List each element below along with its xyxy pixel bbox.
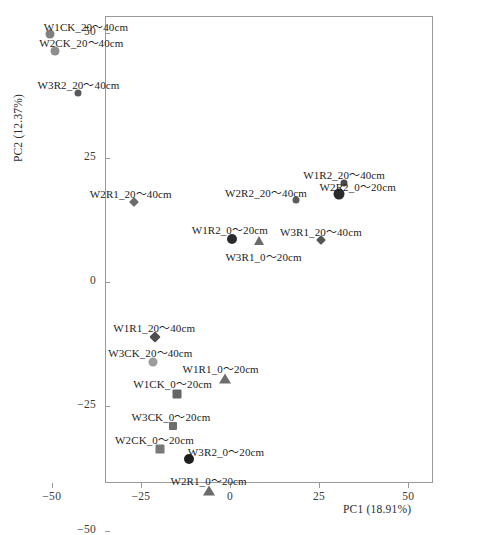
data-point-label: W1R1_20～40cm [113,319,195,335]
y-axis-tick [105,158,110,159]
x-axis-tick-label: −50 [22,490,82,502]
y-axis-tick [105,282,110,283]
data-point [254,236,264,245]
y-axis-tick-label: 25 [56,150,96,162]
y-axis-tick-label: −25 [56,398,96,410]
x-axis-tick [408,483,409,488]
x-axis-tick [141,483,142,488]
data-point-label: W2R2_20～40cm [225,184,307,200]
y-axis-title: PC2 (12.37%) [12,63,24,193]
data-point-label: W1CK_0～20cm [133,375,212,391]
y-axis-tick-label: 0 [56,274,96,286]
x-axis-tick [52,483,53,488]
y-axis-tick-label: −50 [56,523,96,535]
y-axis-tick [105,531,110,532]
data-point-label: W3R2_20～40cm [38,76,120,92]
data-point-label: W2CK_0～20cm [115,431,194,447]
data-point-label: W3CK_20～40cm [108,344,192,360]
data-point-label: W3R1_20～40cm [280,223,362,239]
data-point-label: W3R1_0～20cm [225,248,301,264]
data-point-label: W3CK_0～20cm [132,408,211,424]
x-axis-tick-label: 25 [289,490,349,502]
x-axis-tick-label: 50 [378,490,438,502]
data-point-label: W1R2_0～20cm [192,221,268,237]
data-point-label: W2CK_20～40cm [39,34,123,50]
data-point-label: W1R1_0～20cm [183,360,259,376]
data-point-label: W3R2_0～20cm [188,443,264,459]
x-axis-title: PC1 (18.91%) [343,503,411,515]
data-point-label: W2R1_20～40cm [90,185,172,201]
x-axis-tick-label: −25 [111,490,171,502]
data-point-label: W1CK_20～40cm [44,18,128,34]
data-point-label: W2R2_0～20cm [320,178,396,194]
y-axis-tick [105,406,110,407]
data-point-label: W2R1_0～20cm [170,472,246,488]
x-axis-tick [319,483,320,488]
